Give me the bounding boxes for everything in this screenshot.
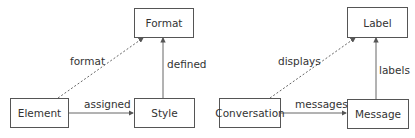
- node-style: Style: [134, 98, 195, 128]
- edge-label-format: format: [70, 55, 105, 67]
- node-conversation: Conversation: [219, 98, 281, 128]
- edge-label-labels: labels: [379, 64, 410, 76]
- node-element-label: Element: [18, 107, 61, 119]
- node-label: Label: [347, 7, 408, 38]
- edge-displays-dashed: [270, 38, 355, 98]
- node-label-label: Label: [363, 17, 391, 29]
- node-format-label: Format: [145, 17, 182, 29]
- edge-label-assigned: assigned: [84, 98, 131, 110]
- edge-label-messages: messages: [295, 98, 348, 110]
- node-message: Message: [347, 99, 409, 129]
- node-format: Format: [134, 8, 194, 38]
- node-element: Element: [10, 98, 69, 128]
- edge-label-defined: defined: [167, 58, 207, 70]
- node-conversation-label: Conversation: [215, 107, 284, 119]
- edge-format-dashed: [58, 38, 143, 98]
- node-style-label: Style: [151, 107, 177, 119]
- edge-label-displays: displays: [278, 55, 321, 67]
- node-message-label: Message: [355, 108, 401, 120]
